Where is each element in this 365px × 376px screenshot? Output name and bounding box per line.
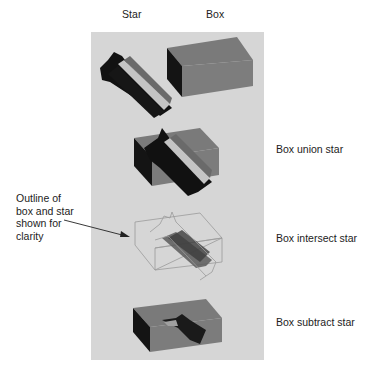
row-label-union: Box union star [276, 143, 343, 155]
star-solid [100, 52, 172, 118]
intersect-solid [135, 212, 222, 280]
row-label-intersect: Box intersect star [276, 232, 357, 244]
subtract-solid [133, 299, 222, 352]
row-label-subtract: Box subtract star [276, 316, 355, 328]
annotation-note: Outline of box and star shown for clarit… [16, 192, 106, 242]
annotation-line: clarity [16, 230, 106, 243]
union-solid [134, 128, 219, 196]
annotation-line: Outline of [16, 192, 106, 205]
annotation-line: shown for [16, 217, 106, 230]
box-solid [167, 37, 253, 97]
annotation-line: box and star [16, 205, 106, 218]
